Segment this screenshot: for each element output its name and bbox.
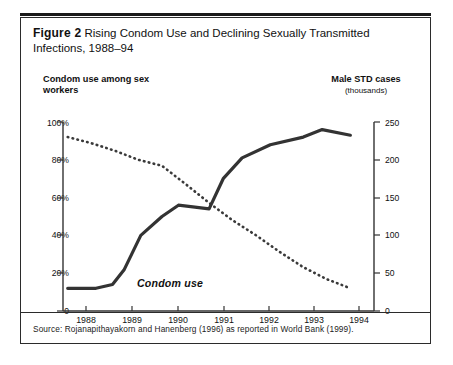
- figure-top-rule: [20, 13, 431, 16]
- left-tick-marks: [57, 122, 63, 311]
- condom-use-annotation: Condom use: [137, 277, 203, 289]
- right-tick-marks: [374, 122, 380, 311]
- figure-container: Figure 2 Rising Condom Use and Declining…: [20, 17, 431, 344]
- chart-area: Condom use among sex workers Male STD ca…: [21, 18, 432, 318]
- x-tick-marks: [86, 306, 359, 311]
- series-male-std-cases: [68, 137, 351, 288]
- chart-svg: [21, 18, 432, 318]
- series-condom-use: [68, 130, 351, 289]
- source-divider: [21, 312, 430, 313]
- source-note: Source: Rojanapithayakorn and Hanenberg …: [33, 324, 354, 334]
